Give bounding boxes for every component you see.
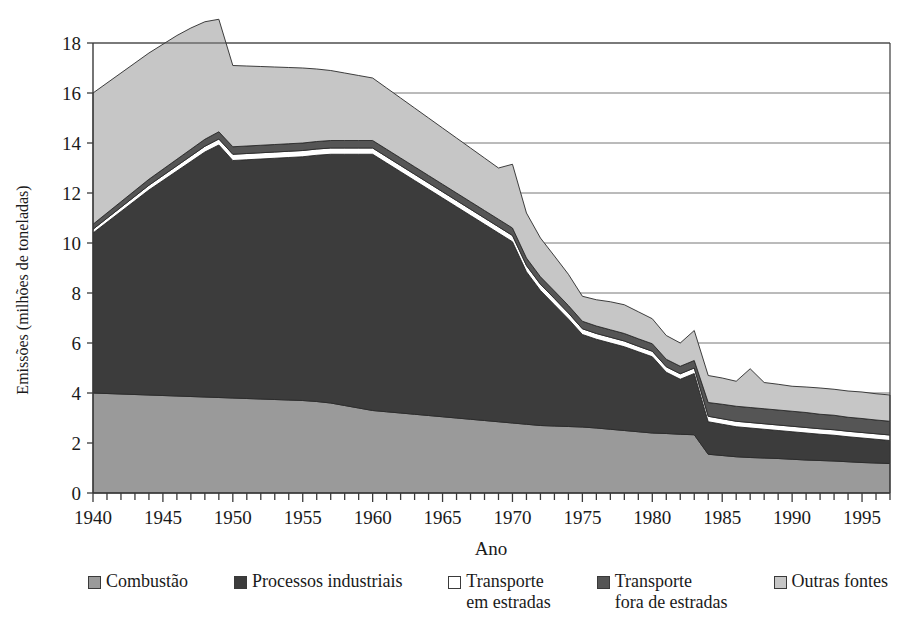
legend-item-processos-industriais[interactable]: Processos industriais	[234, 571, 403, 592]
y-axis-title: Emissões (milhões de toneladas)	[14, 185, 32, 394]
legend-row: Combustão Processos industriais Transpor…	[88, 571, 888, 612]
legend-label-transporte-fora-de-estradas: Transporte fora de estradas	[615, 571, 728, 612]
y-tick-label-16: 16	[62, 83, 81, 104]
x-tick-label-1980: 1980	[633, 507, 671, 528]
y-tick-label-18: 18	[62, 33, 81, 54]
y-tick-label-4: 4	[72, 383, 82, 404]
x-tick-label-1975: 1975	[563, 507, 601, 528]
legend-label-outras-fontes: Outras fontes	[792, 571, 888, 592]
x-tick-label-1995: 1995	[843, 507, 881, 528]
x-tick-label-1940: 1940	[74, 507, 112, 528]
legend-label-processos-industriais: Processos industriais	[252, 571, 403, 592]
x-tick-label-1985: 1985	[703, 507, 741, 528]
y-tick-label-6: 6	[72, 333, 82, 354]
y-tick-label-0: 0	[72, 483, 82, 504]
y-tick-label-10: 10	[62, 233, 81, 254]
legend-swatch-combustao	[88, 576, 101, 589]
legend-item-outras-fontes[interactable]: Outras fontes	[774, 571, 888, 592]
x-tick-label-1970: 1970	[493, 507, 531, 528]
x-tick-label-1945: 1945	[144, 507, 182, 528]
x-tick-label-1960: 1960	[354, 507, 392, 528]
legend-item-transporte-em-estradas[interactable]: Transporte em estradas	[448, 571, 550, 612]
legend-swatch-transporte-em-estradas	[448, 576, 461, 589]
x-tick-label-1955: 1955	[284, 507, 322, 528]
stacked-area-chart: 1940194519501955196019651970197519801985…	[0, 0, 920, 643]
legend-swatch-processos-industriais	[234, 576, 247, 589]
y-tick-label-14: 14	[62, 133, 82, 154]
legend-swatch-outras-fontes	[774, 576, 787, 589]
legend-item-combustao[interactable]: Combustão	[88, 571, 188, 592]
chart-figure: 1940194519501955196019651970197519801985…	[0, 0, 920, 643]
legend-swatch-transporte-fora-de-estradas	[597, 576, 610, 589]
y-tick-label-8: 8	[72, 283, 82, 304]
x-axis-title: Ano	[475, 538, 508, 559]
legend-item-transporte-fora-de-estradas[interactable]: Transporte fora de estradas	[597, 571, 728, 612]
y-tick-label-12: 12	[62, 183, 81, 204]
x-tick-label-1950: 1950	[214, 507, 252, 528]
chart-legend: Combustão Processos industriais Transpor…	[0, 571, 920, 643]
legend-label-combustao: Combustão	[106, 571, 188, 592]
x-tick-label-1990: 1990	[773, 507, 811, 528]
x-tick-label-1965: 1965	[424, 507, 462, 528]
legend-label-transporte-em-estradas: Transporte em estradas	[466, 571, 550, 612]
y-tick-label-2: 2	[72, 433, 82, 454]
